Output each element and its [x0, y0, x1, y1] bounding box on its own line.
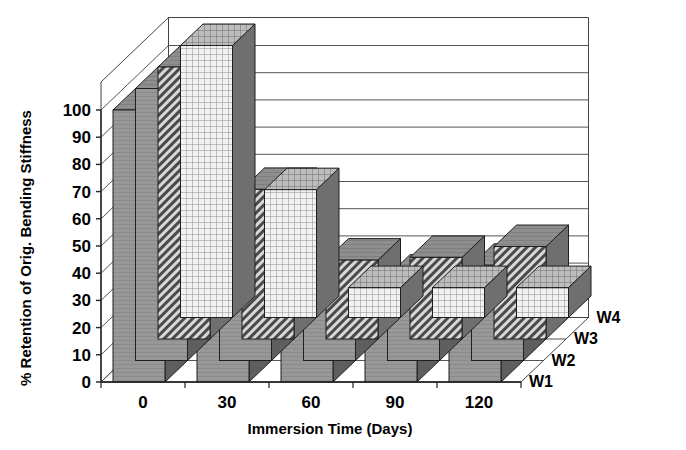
x-axis-title: Immersion Time (Days)	[248, 420, 413, 437]
series-label-w2: W2	[552, 352, 576, 369]
chart-figure: 0102030405060708090100 0306090120 W1W2W3…	[0, 0, 686, 450]
x-axis-tick-labels: 0306090120	[101, 382, 521, 412]
y-tick-label: 70	[72, 183, 91, 202]
y-tick-label: 30	[72, 291, 91, 310]
y-tick-label: 20	[72, 319, 91, 338]
series-label-w4: W4	[597, 309, 621, 326]
x-tick-label: 90	[386, 393, 405, 412]
y-tick-label: 90	[72, 128, 91, 147]
x-tick-label: 60	[302, 393, 321, 412]
series-label-w1: W1	[529, 373, 553, 390]
x-tick-label: 30	[218, 393, 237, 412]
y-tick-label: 80	[72, 155, 91, 174]
y-tick-label: 60	[72, 210, 91, 229]
plot-area	[101, 18, 591, 383]
series-label-w3: W3	[574, 330, 598, 347]
y-axis-tick-labels: 0102030405060708090100	[63, 101, 101, 392]
y-tick-label: 40	[72, 264, 91, 283]
y-axis-title: % Retention of Orig. Bending Stiffness	[17, 110, 34, 386]
bar-w4-30	[265, 168, 340, 317]
y-tick-label: 100	[63, 101, 91, 120]
y-tick-label: 50	[72, 237, 91, 256]
x-tick-label: 0	[138, 393, 147, 412]
y-tick-label: 0	[82, 373, 91, 392]
x-tick-label: 120	[465, 393, 493, 412]
y-tick-label: 10	[72, 346, 91, 365]
bar-chart-3d: 0102030405060708090100 0306090120 W1W2W3…	[0, 0, 686, 450]
bar-w4-0	[181, 24, 256, 318]
